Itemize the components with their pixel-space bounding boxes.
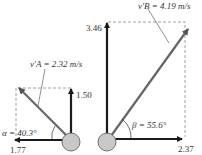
horizontal-component-label-b: 2.37 xyxy=(178,144,194,154)
vertical-component-label-a: 1.50 xyxy=(76,90,92,100)
angle-arc-b xyxy=(122,119,131,139)
angle-label-a: α = 40.3° xyxy=(2,128,37,138)
angle-label-b: β = 55.6° xyxy=(131,120,167,130)
angle-arc-a xyxy=(52,126,55,140)
leader-line-a xyxy=(38,69,45,106)
vertical-component-label-b: 3.46 xyxy=(86,23,102,33)
velocity-label-a: v′A = 2.32 m/s xyxy=(30,59,83,69)
velocity-diagram: v′A = 2.32 m/s 1.50 1.77 α = 40.3° v′B =… xyxy=(0,0,202,155)
ball-a xyxy=(62,133,80,151)
ball-b-group: v′B = 4.19 m/s 3.46 2.37 β = 55.6° xyxy=(86,1,194,154)
ball-a-group: v′A = 2.32 m/s 1.50 1.77 α = 40.3° xyxy=(2,59,92,155)
leader-line-b xyxy=(148,9,169,43)
horizontal-component-label-a: 1.77 xyxy=(10,145,26,155)
velocity-label-b: v′B = 4.19 m/s xyxy=(138,1,191,11)
ball-b xyxy=(98,133,116,151)
